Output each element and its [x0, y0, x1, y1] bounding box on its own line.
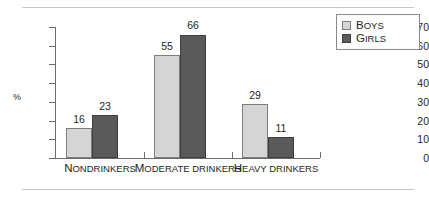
category-label-heavy-drinkers: HEAVY DRINKERS [218, 163, 334, 175]
y-tick-70 [49, 27, 55, 28]
y-tick-label-40: 40 [383, 78, 429, 89]
bar-girls-moderate-drinkers [180, 35, 206, 159]
y-tick-label-50: 50 [383, 59, 429, 70]
y-tick-0 [49, 158, 55, 159]
bar-boys-nondrinkers [66, 128, 92, 158]
y-tick-label-20: 20 [383, 116, 429, 127]
y-tick-20 [49, 121, 55, 122]
y-axis-label: % [13, 92, 21, 102]
legend-item-girls[interactable]: GIRLS [342, 32, 413, 45]
y-tick-10 [49, 139, 55, 140]
bar-value-label: 16 [59, 114, 99, 125]
plot-area [56, 27, 320, 158]
y-tick-30 [49, 102, 55, 103]
y-tick-label-30: 30 [383, 97, 429, 108]
legend-label-boys: BOYS [356, 20, 384, 32]
x-axis-line [55, 158, 320, 159]
legend-label-girls: GIRLS [356, 33, 386, 45]
y-tick-label-0: 0 [383, 153, 429, 164]
x-tick-end [320, 152, 321, 158]
bottom-divider [22, 189, 414, 190]
bar-value-label: 23 [85, 101, 125, 112]
y-tick-60 [49, 46, 55, 47]
bar-girls-heavy-drinkers [268, 137, 294, 158]
y-tick-50 [49, 64, 55, 65]
bar-value-label: 66 [173, 20, 213, 31]
legend: BOYS GIRLS [336, 14, 420, 50]
bar-value-label: 11 [261, 123, 301, 134]
legend-item-boys[interactable]: BOYS [342, 19, 413, 32]
bar-boys-moderate-drinkers [154, 55, 180, 158]
bar-chart-figure: % 706050403020100 1623NONDRINKERS5566MOD… [0, 0, 429, 199]
bar-value-label: 55 [147, 41, 187, 52]
y-tick-40 [49, 83, 55, 84]
legend-swatch-girls-icon [342, 34, 351, 43]
y-tick-label-10: 10 [383, 134, 429, 145]
legend-swatch-boys-icon [342, 21, 351, 30]
bar-value-label: 29 [235, 90, 275, 101]
top-divider [22, 7, 414, 8]
